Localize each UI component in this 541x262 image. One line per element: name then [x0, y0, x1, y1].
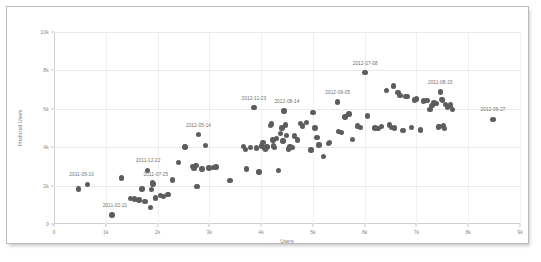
scatter-point — [213, 164, 218, 169]
scatter-point — [278, 131, 283, 136]
scatter-point — [335, 99, 340, 104]
scatter-point — [284, 133, 289, 138]
x-tick-label: 5k — [310, 229, 315, 235]
scatter-point — [280, 138, 285, 143]
x-tick-mark — [209, 224, 210, 227]
scatter-point — [392, 125, 397, 130]
y-tick-label: 6k — [43, 106, 49, 112]
point-annotation-label: 2012-05-14 — [186, 123, 211, 128]
scatter-point — [314, 135, 319, 140]
x-tick-label: 1k — [103, 229, 108, 235]
point-annotation-label: 2011-12-22 — [136, 158, 161, 163]
scatter-point — [248, 145, 253, 150]
scatter-point — [165, 192, 170, 197]
scatter-point — [170, 177, 175, 182]
x-tick-mark — [312, 224, 313, 227]
scatter-point — [281, 108, 286, 113]
scatter-point — [256, 169, 261, 174]
chart-screenshot: Predicted Users Users 02k4k6k8k10k 01k2k… — [0, 0, 541, 262]
scatter-point — [316, 142, 321, 147]
scatter-point — [391, 83, 396, 88]
scatter-point — [308, 147, 313, 152]
scatter-point — [274, 136, 279, 141]
scatter-point — [136, 197, 141, 202]
x-tick-label: 9k — [517, 229, 522, 235]
x-axis-line — [54, 223, 520, 224]
y-axis-line — [54, 32, 55, 224]
gridline — [54, 186, 520, 187]
point-annotation-label: 2012-11-23 — [242, 96, 267, 101]
gridline — [520, 32, 521, 224]
scatter-point — [193, 163, 198, 168]
scatter-point — [295, 137, 300, 142]
scatter-point — [350, 137, 355, 142]
scatter-point — [199, 166, 204, 171]
scatter-point — [289, 145, 294, 150]
gridline — [54, 70, 520, 71]
y-tick-label: 4k — [43, 144, 49, 150]
scatter-point — [490, 117, 495, 122]
point-annotation-label: 2012-06-05 — [325, 90, 350, 95]
scatter-point — [362, 70, 367, 75]
x-tick-label: 0 — [53, 229, 56, 235]
x-tick-label: 7k — [414, 229, 419, 235]
scatter-point — [119, 175, 124, 180]
scatter-point — [450, 107, 455, 112]
point-annotation-label: 2012-09-27 — [481, 107, 506, 112]
scatter-point — [196, 132, 201, 137]
x-tick-mark — [520, 224, 521, 227]
point-annotation-label: 2011-08-23 — [428, 80, 453, 85]
gridline — [261, 32, 262, 224]
y-axis-title: Predicted Users — [17, 110, 23, 147]
scatter-point — [312, 125, 317, 130]
scatter-point — [327, 140, 332, 145]
gridline — [106, 32, 107, 224]
x-tick-label: 8k — [465, 229, 470, 235]
y-tick-label: 0 — [46, 221, 49, 227]
gridline — [54, 32, 520, 33]
point-annotation-label: 2012-08-14 — [274, 99, 299, 104]
gridline — [468, 32, 469, 224]
gridline — [209, 32, 210, 224]
scatter-point — [418, 127, 423, 132]
scatter-point — [414, 96, 419, 101]
scatter-point — [321, 154, 326, 159]
scatter-point — [346, 111, 351, 116]
scatter-point — [148, 205, 153, 210]
scatter-point — [409, 125, 414, 130]
x-tick-mark — [468, 224, 469, 227]
scatter-point — [264, 144, 269, 149]
plot-area: 02k4k6k8k10k 01k2k3k4k5k6k7k8k9k 2011-05… — [54, 32, 520, 224]
scatter-point — [424, 98, 429, 103]
scatter-point — [269, 121, 274, 126]
scatter-point — [142, 199, 147, 204]
scatter-point — [227, 178, 232, 183]
chart-panel: Predicted Users Users 02k4k6k8k10k 01k2k… — [10, 10, 525, 240]
x-tick-mark — [364, 224, 365, 227]
scatter-point — [339, 130, 344, 135]
y-tick-mark — [51, 70, 54, 71]
y-tick-mark — [51, 32, 54, 33]
scatter-point — [276, 168, 281, 173]
scatter-point — [150, 181, 155, 186]
x-tick-mark — [105, 224, 106, 227]
scatter-point — [442, 126, 447, 131]
point-annotation-label: 2011-07-25 — [144, 172, 169, 177]
x-tick-mark — [54, 224, 55, 227]
scatter-point — [109, 212, 114, 217]
y-tick-label: 2k — [43, 183, 49, 189]
scatter-point — [438, 89, 443, 94]
x-tick-mark — [261, 224, 262, 227]
scatter-point — [251, 105, 256, 110]
point-annotation-label: 2011-05-10 — [69, 172, 94, 177]
x-tick-mark — [416, 224, 417, 227]
x-tick-label: 6k — [362, 229, 367, 235]
scatter-point — [310, 110, 315, 115]
scatter-point — [433, 101, 438, 106]
scatter-point — [365, 113, 370, 118]
scatter-point — [358, 125, 363, 130]
scatter-point — [149, 187, 154, 192]
scatter-point — [76, 186, 81, 191]
x-axis-title: Users — [280, 238, 294, 244]
scatter-point — [304, 120, 309, 125]
